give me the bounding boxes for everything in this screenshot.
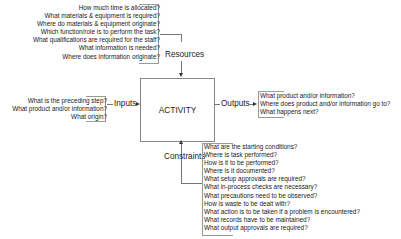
resources-connector-v [181,34,182,42]
outputs-connector [214,104,220,105]
constraints-question: What setup approvals are required? [204,175,360,183]
constraints-question: What precautions need to be observed? [204,192,360,200]
outputs-question: What happens next? [260,108,390,116]
resources-question: What qualifications are required for the… [33,36,160,44]
constraints-question: What records have to be maintained? [204,216,360,224]
outputs-label: Outputs [221,99,250,108]
inputs-connector [107,104,113,105]
inputs-label: Inputs [114,99,136,108]
outputs-question: Where does product and/or information go… [260,100,390,108]
inputs-question: What product and/or information? [12,105,107,113]
arrow-right-icon [253,102,257,106]
constraints-question: Where is it documented? [204,167,360,175]
outputs-question: What product and/or information? [260,92,390,100]
activity-label: ACTIVITY [159,105,197,115]
constraints-question-list: What are the starting conditions? Where … [204,143,360,232]
activity-box: ACTIVITY [140,78,215,142]
constraints-label: Constraints [164,152,205,161]
inputs-question: What origin? [12,113,107,121]
constraints-question: What output approvals are required? [204,224,360,232]
resources-label: Resources [165,50,204,59]
constraints-question: What action is to be taken if a problem … [204,208,360,216]
resources-question-list: How much time is allocated? What materia… [33,4,160,61]
resources-connector-h [160,34,182,35]
resources-question: What information is needed? [33,44,160,52]
resources-question: Which function/role is to perform the ta… [33,28,160,36]
inputs-question-list: What is the preceding step? What product… [12,97,107,121]
resources-question: What materials & equipment is required? [33,12,160,20]
constraints-question: Where is task performed? [204,151,360,159]
resources-question: Where do materials & equipment originate… [33,20,160,28]
constraints-connector [181,183,202,184]
constraints-question: How is waste to be dealt with? [204,200,360,208]
arrow-down-icon [179,73,183,77]
inputs-question: What is the preceding step? [12,97,107,105]
constraints-question: What in-process checks are necessary? [204,183,360,191]
resources-question: How much time is allocated? [33,4,160,12]
resources-question: Where does information originate? [33,53,160,61]
constraints-question: What are the starting conditions? [204,143,360,151]
constraints-question: How is it to be performed? [204,159,360,167]
outputs-question-list: What product and/or information? Where d… [260,92,390,116]
constraints-arrow-line [181,144,182,184]
